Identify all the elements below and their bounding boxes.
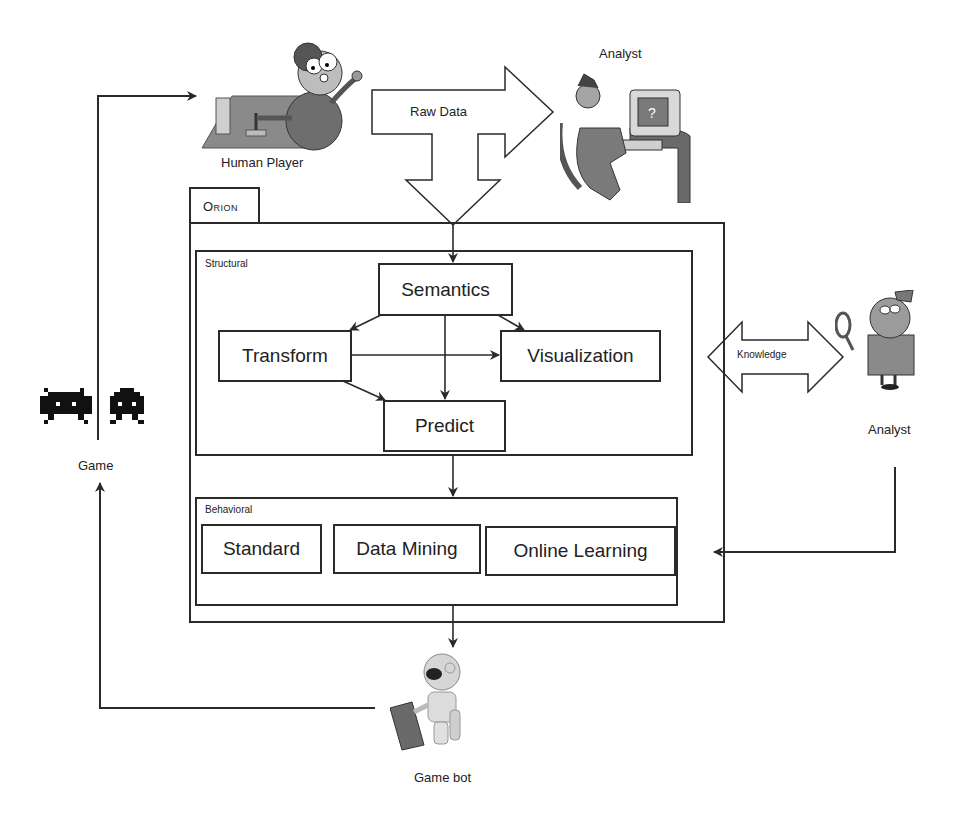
analyst-right-label: Analyst [868,422,911,437]
knowledge-label: Knowledge [737,349,786,360]
game-bot-label: Game bot [414,770,471,785]
space-invaders-icon-row2 [40,393,158,437]
orion-title: Orion [203,199,238,214]
analyst-top-label: Analyst [599,46,642,61]
analyst-computer-illustration: ? [560,68,695,203]
human-player-label: Human Player [221,155,303,170]
orion-tab: Orion [189,187,260,224]
game-bot-illustration [390,650,500,755]
module-online-learning: Online Learning [485,526,676,576]
module-visualization: Visualization [500,330,661,382]
svg-text:?: ? [648,105,656,121]
behavioral-title: Behavioral [205,504,252,515]
human-player-illustration [196,38,366,158]
module-standard: Standard [201,524,322,574]
raw-data-label: Raw Data [410,104,467,119]
module-predict: Predict [383,400,506,452]
module-transform: Transform [218,330,352,382]
module-data-mining: Data Mining [333,524,481,574]
analyst-detective-illustration [835,290,930,390]
analyst-to-online-learning-arrow [714,467,895,552]
module-semantics: Semantics [378,263,513,316]
structural-title: Structural [205,258,248,269]
game-label: Game [78,458,113,473]
raw-data-block-arrow [372,67,553,225]
